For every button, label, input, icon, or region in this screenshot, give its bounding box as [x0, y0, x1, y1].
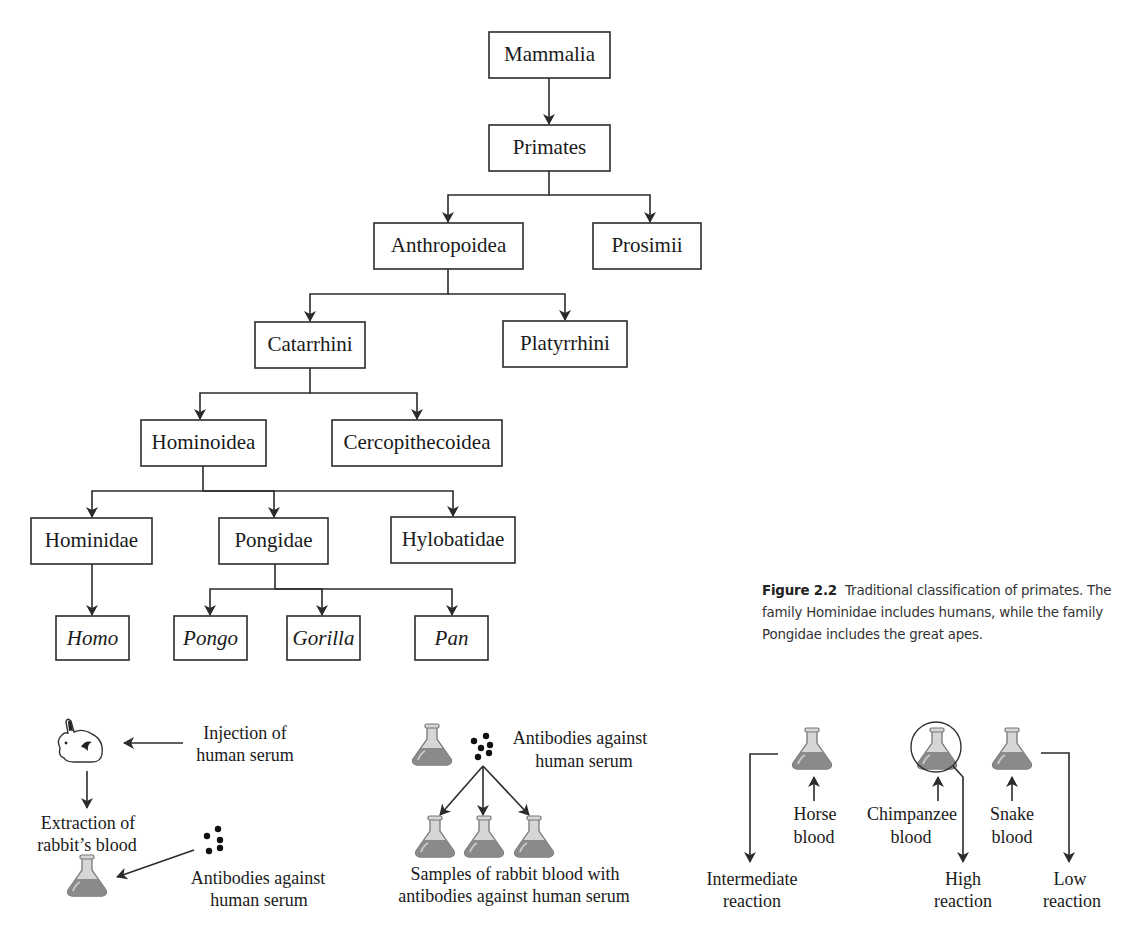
figure-canvas: Mammalia Primates Anthropoidea Prosimii …	[0, 0, 1133, 935]
node-label: Pongo	[182, 626, 238, 650]
node-hylobatidae: Hylobatidae	[391, 517, 515, 563]
figure-number: Figure 2.2	[762, 583, 837, 598]
node-primates: Primates	[489, 125, 610, 171]
node-label: Pongidae	[234, 528, 312, 552]
process-step-3: Horse blood Intermediate reaction Chimpa…	[707, 722, 1101, 911]
node-platyrrhini: Platyrrhini	[503, 321, 627, 367]
node-mammalia: Mammalia	[489, 32, 610, 78]
flask-icon	[515, 816, 554, 857]
node-pongidae: Pongidae	[219, 518, 328, 564]
blood-label: Chimpanzee	[867, 804, 957, 824]
node-label: Anthropoidea	[391, 233, 507, 257]
antibodies-label: human serum	[210, 890, 307, 910]
figure-caption: Figure 2.2 Traditional classification of…	[762, 580, 1122, 646]
node-label: Pan	[434, 626, 469, 650]
node-label: Mammalia	[504, 42, 596, 66]
extraction-label: Extraction of	[41, 813, 135, 833]
process-step-1: Injection of human serum Extraction of r…	[37, 719, 325, 910]
node-cercopithecoidea: Cercopithecoidea	[332, 420, 502, 466]
node-pongo: Pongo	[174, 616, 247, 660]
blood-label: Snake	[990, 804, 1034, 824]
samples-label: antibodies against human serum	[398, 886, 629, 906]
reaction-label: reaction	[934, 891, 992, 911]
node-label: Primates	[513, 135, 587, 159]
antibody-dots-icon	[204, 826, 223, 854]
reaction-label: Low	[1054, 869, 1087, 889]
node-hominoidea: Hominoidea	[141, 420, 266, 466]
node-label: Prosimii	[611, 233, 682, 257]
flask-icon	[465, 816, 504, 857]
reaction-label: Intermediate	[707, 869, 798, 889]
node-label: Hominidae	[45, 528, 138, 552]
flask-icon	[413, 724, 452, 765]
flask-icon	[993, 728, 1032, 769]
extraction-label: rabbit’s blood	[37, 835, 137, 855]
reaction-label: reaction	[1043, 891, 1101, 911]
blood-label: Horse	[794, 804, 837, 824]
blood-label: blood	[991, 827, 1032, 847]
node-label: Catarrhini	[267, 332, 352, 356]
node-label: Platyrrhini	[520, 331, 610, 355]
flask-icon	[793, 728, 832, 769]
node-label: Hylobatidae	[402, 527, 505, 551]
blood-label: blood	[793, 827, 834, 847]
antibody-dots-icon	[471, 733, 493, 760]
injection-label: Injection of	[203, 723, 286, 743]
node-label: Hominoidea	[152, 430, 256, 454]
process-step-2: Antibodies against human serum Samples o…	[398, 724, 647, 906]
flask-icon	[918, 728, 957, 769]
samples-label: Samples of rabbit blood with	[411, 864, 620, 884]
antibodies-label: Antibodies against	[191, 868, 325, 888]
node-pan: Pan	[415, 616, 488, 660]
node-gorilla: Gorilla	[287, 616, 360, 660]
blood-label: blood	[890, 827, 931, 847]
flask-icon	[416, 816, 455, 857]
antibodies-label: human serum	[535, 751, 632, 771]
flask-icon	[68, 855, 107, 896]
node-label: Gorilla	[293, 626, 355, 650]
node-prosimii: Prosimii	[593, 223, 701, 269]
node-label: Homo	[66, 626, 118, 650]
reaction-label: reaction	[723, 891, 781, 911]
antibodies-label: Antibodies against	[513, 728, 647, 748]
reaction-label: High	[945, 869, 981, 889]
injection-label: human serum	[196, 745, 293, 765]
node-hominidae: Hominidae	[31, 518, 152, 564]
rabbit-icon	[58, 719, 102, 762]
node-anthropoidea: Anthropoidea	[374, 223, 523, 269]
node-catarrhini: Catarrhini	[255, 322, 365, 368]
node-label: Cercopithecoidea	[344, 430, 492, 454]
node-homo: Homo	[56, 616, 129, 660]
